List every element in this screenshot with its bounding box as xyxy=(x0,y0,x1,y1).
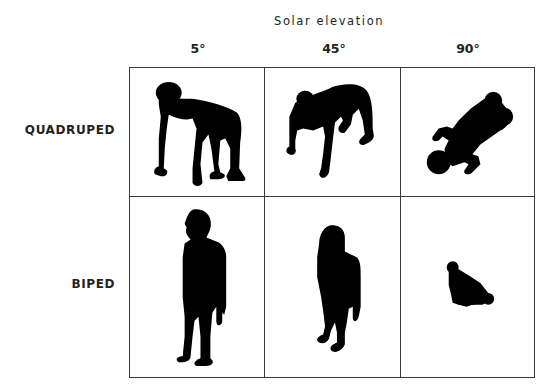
cell-biped-5deg xyxy=(131,198,264,377)
column-label-45deg: 45° xyxy=(304,41,364,56)
shadow-comparison-grid xyxy=(129,67,535,378)
column-label-5deg: 5° xyxy=(168,41,228,56)
biped-shadow-45deg-icon xyxy=(265,198,399,377)
axis-title-solar-elevation: Solar elevation xyxy=(274,14,384,28)
row-label-quadruped: QUADRUPED xyxy=(25,123,115,137)
biped-shadow-5deg-icon xyxy=(131,198,264,377)
cell-quadruped-90deg xyxy=(401,69,535,196)
row-label-biped: BIPED xyxy=(71,277,115,291)
quadruped-shadow-45deg-icon xyxy=(265,69,399,196)
quadruped-shadow-90deg-icon xyxy=(401,69,535,196)
cell-biped-45deg xyxy=(265,198,399,377)
grid-divider-horizontal xyxy=(130,196,534,197)
cell-quadruped-45deg xyxy=(265,69,399,196)
quadruped-shadow-5deg-icon xyxy=(131,69,264,196)
cell-quadruped-5deg xyxy=(131,69,264,196)
biped-shadow-90deg-icon xyxy=(401,198,535,377)
cell-biped-90deg xyxy=(401,198,535,377)
column-label-90deg: 90° xyxy=(438,41,498,56)
